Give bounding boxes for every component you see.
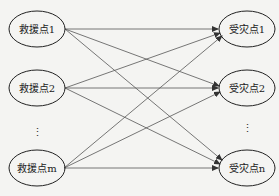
edges (64, 29, 222, 168)
left-node-m-label: 救援点m (17, 162, 57, 174)
left-node-2-label: 救援点2 (19, 82, 55, 94)
right-node-1-label: 受灾点1 (229, 23, 265, 35)
left-ellipsis: ⋮ (32, 126, 43, 139)
left-node-2: 救援点2 (9, 70, 65, 106)
right-node-n-label: 受灾点n (229, 162, 266, 174)
right-node-2-label: 受灾点2 (229, 82, 265, 94)
left-node-1: 救援点1 (9, 11, 65, 47)
network-diagram: 救援点1 救援点2 ⋮ 救援点m 受灾点1 受灾点2 ⋮ 受灾点n (0, 0, 279, 196)
left-node-m: 救援点m (9, 150, 65, 186)
right-node-1: 受灾点1 (219, 11, 275, 47)
right-node-n: 受灾点n (219, 150, 275, 186)
right-node-2: 受灾点2 (219, 70, 275, 106)
left-node-1-label: 救援点1 (19, 23, 55, 35)
right-ellipsis: ⋮ (242, 122, 253, 135)
